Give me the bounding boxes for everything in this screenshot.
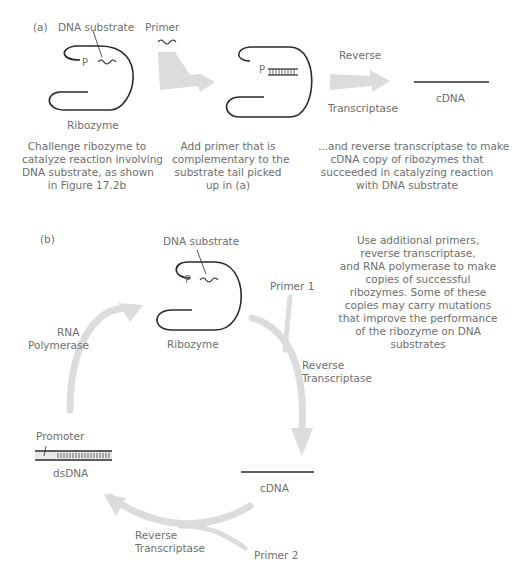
cycle-arrow-rt1: [252, 318, 302, 430]
rt-label-top-a: Reverse: [339, 48, 381, 62]
primer1-label: Primer 1: [270, 279, 314, 293]
rt2-label-bottom: Transcriptase: [135, 541, 205, 555]
arrowhead-rnapol: [118, 303, 143, 322]
rnapol-label-bottom: Polymerase: [28, 338, 89, 352]
ribozyme-label-b: Ribozyme: [167, 337, 219, 351]
step2-caption: Add primer that iscomplementary to thesu…: [172, 140, 284, 192]
ribozyme-shape-a1: [49, 31, 133, 110]
p-label-a2: P: [259, 63, 265, 77]
dsdna-shape: [35, 446, 112, 460]
step3-caption: ...and reverse transcriptase to makecDNA…: [318, 140, 496, 192]
cycle-arrow-rnapol: [70, 308, 135, 410]
arrowhead-rt1: [291, 428, 313, 456]
p-label-b: P: [185, 273, 191, 287]
dna-substrate-label-b: DNA substrate: [163, 234, 239, 248]
dna-substrate-label-a: DNA substrate: [58, 20, 134, 34]
primer2-label: Primer 2: [254, 548, 298, 562]
p-label-a1: P: [82, 56, 88, 70]
step1-caption: Challenge ribozyme tocatalyze reaction i…: [22, 140, 152, 192]
primer-squiggle: [158, 40, 176, 44]
cdna-label-b: cDNA: [260, 481, 289, 495]
dsdna-label: dsDNA: [53, 466, 88, 480]
panel-a-label: (a): [33, 20, 48, 34]
primer-label: Primer: [145, 20, 179, 34]
cycle-arrow-rt2: [110, 497, 250, 524]
rnapol-label-top: RNA: [57, 325, 79, 339]
primer-arrow: [158, 52, 215, 92]
rt-label-bottom-a: Transcriptase: [328, 101, 398, 115]
ribozyme-label-a: Ribozyme: [67, 118, 119, 132]
rt1-label-top: Reverse: [302, 358, 344, 372]
rt2-label-top: Reverse: [135, 528, 177, 542]
ribozyme-shape-a2: [227, 47, 312, 117]
rt1-label-bottom: Transcriptase: [302, 371, 372, 385]
cdna-label-a: cDNA: [436, 91, 465, 105]
panel-b-label: (b): [40, 232, 55, 246]
panel-b-description: Use additional primers,reverse transcrip…: [338, 234, 498, 351]
ribozyme-shape-b: [157, 250, 241, 330]
rt-arrow-a: [330, 70, 390, 92]
promoter-label: Promoter: [36, 429, 84, 443]
